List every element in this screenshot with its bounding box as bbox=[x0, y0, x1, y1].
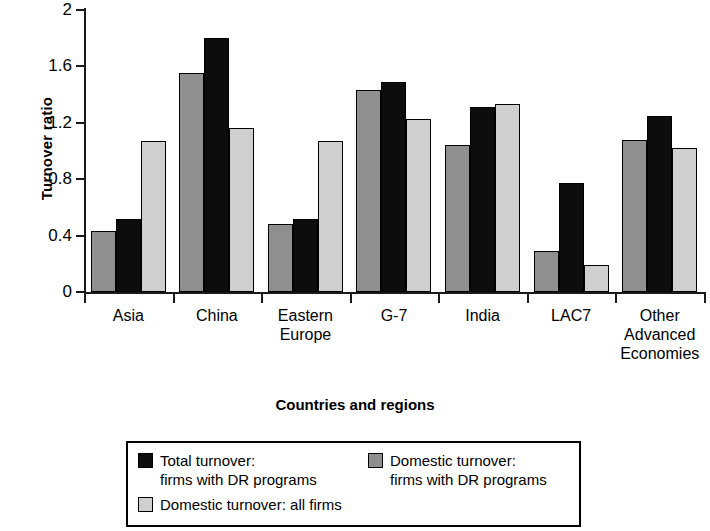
x-axis-tick bbox=[704, 294, 706, 303]
bar bbox=[268, 224, 293, 292]
bar bbox=[179, 73, 204, 292]
y-axis-tick bbox=[76, 235, 84, 237]
bar bbox=[559, 183, 584, 292]
bar bbox=[495, 104, 520, 292]
bar bbox=[584, 265, 609, 292]
bar bbox=[406, 119, 431, 292]
bar-group bbox=[261, 10, 350, 292]
bar-group bbox=[615, 10, 704, 292]
bar-group bbox=[527, 10, 616, 292]
x-axis-title: Countries and regions bbox=[0, 396, 710, 413]
y-axis-tick bbox=[76, 178, 84, 180]
bar bbox=[293, 219, 318, 292]
legend-swatch-light-gray bbox=[138, 497, 153, 512]
bar bbox=[356, 90, 381, 292]
bar bbox=[445, 145, 470, 292]
legend-label: Total turnover: firms with DR programs bbox=[160, 451, 317, 489]
legend-item-domestic-turnover-dr: Domestic turnover: firms with DR program… bbox=[368, 451, 547, 489]
y-axis-tick bbox=[76, 9, 84, 11]
x-axis-line bbox=[84, 292, 706, 294]
bar-group bbox=[84, 10, 173, 292]
bar bbox=[91, 231, 116, 292]
chart-legend: Total turnover: firms with DR programs D… bbox=[126, 441, 581, 527]
x-axis-tick bbox=[527, 294, 529, 303]
legend-label: Domestic turnover: firms with DR program… bbox=[390, 451, 547, 489]
x-axis-tick bbox=[615, 294, 617, 303]
x-axis-tick bbox=[261, 294, 263, 303]
y-axis-tick bbox=[76, 65, 84, 67]
bar bbox=[318, 141, 343, 292]
bar-group bbox=[350, 10, 439, 292]
bar bbox=[381, 82, 406, 292]
y-axis-tick-label: 2 bbox=[20, 1, 72, 18]
legend-label: Domestic turnover: all firms bbox=[160, 495, 342, 514]
bar bbox=[470, 107, 495, 292]
y-axis-tick-label: 1.6 bbox=[20, 57, 72, 74]
y-axis-tick bbox=[76, 122, 84, 124]
plot-area bbox=[84, 10, 704, 292]
y-axis-tick-label: 0.8 bbox=[20, 170, 72, 187]
bar bbox=[204, 38, 229, 292]
y-axis-tick-label: 0 bbox=[20, 283, 72, 300]
bar bbox=[141, 141, 166, 292]
x-axis-tick bbox=[173, 294, 175, 303]
bar-group bbox=[173, 10, 262, 292]
bar bbox=[672, 148, 697, 292]
bar bbox=[647, 116, 672, 292]
x-axis-category-label: OtherAdvancedEconomies bbox=[603, 306, 710, 363]
x-axis-tick bbox=[350, 294, 352, 303]
legend-item-domestic-turnover-all: Domestic turnover: all firms bbox=[138, 495, 342, 514]
y-axis-tick-label: 0.4 bbox=[20, 227, 72, 244]
y-axis-tick-label: 1.2 bbox=[20, 114, 72, 131]
x-axis-tick bbox=[84, 294, 86, 303]
bar bbox=[116, 219, 141, 292]
bar bbox=[229, 128, 254, 292]
legend-swatch-dark-gray bbox=[368, 453, 383, 468]
bar bbox=[622, 140, 647, 292]
bar-group bbox=[438, 10, 527, 292]
bar-chart-figure: Turnover ratio 21.61.20.80.40 AsiaChinaE… bbox=[0, 0, 710, 531]
legend-item-total-turnover-dr: Total turnover: firms with DR programs bbox=[138, 451, 317, 489]
y-axis-tick bbox=[76, 291, 84, 293]
legend-swatch-black bbox=[138, 453, 153, 468]
bar bbox=[534, 251, 559, 292]
x-axis-tick bbox=[438, 294, 440, 303]
